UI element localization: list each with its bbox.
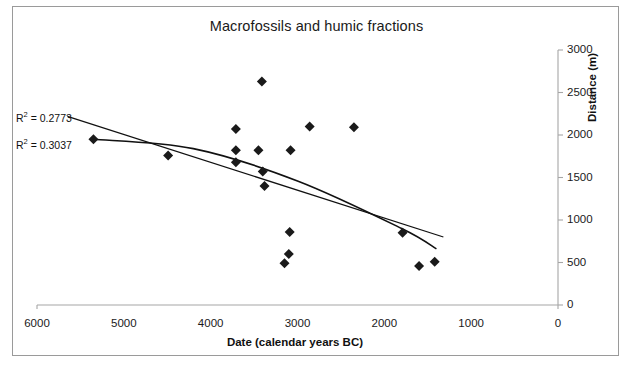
r2-poly-annotation: R2 = 0.3037 <box>16 137 72 151</box>
y-tick-label: 2000 <box>567 128 593 140</box>
data-point-marker <box>231 124 241 134</box>
data-point-marker <box>260 181 270 191</box>
data-point-marker <box>305 122 315 132</box>
data-point-marker <box>286 145 296 155</box>
data-point-marker <box>163 150 173 160</box>
y-tick-label: 0 <box>567 298 573 310</box>
data-points-group <box>88 76 439 270</box>
y-tick-label: 1000 <box>567 213 593 225</box>
x-tick-label: 4000 <box>198 317 224 329</box>
data-point-marker <box>284 249 294 259</box>
x-tick-label: 5000 <box>111 317 137 329</box>
data-point-marker <box>257 76 267 86</box>
plot-canvas <box>0 0 633 370</box>
data-point-marker <box>253 145 263 155</box>
data-point-marker <box>88 134 98 144</box>
data-point-marker <box>231 145 241 155</box>
r2-linear-annotation: R2 = 0.2773 <box>16 110 72 124</box>
linear-trendline <box>67 116 443 237</box>
x-tick-label: 2000 <box>372 317 398 329</box>
data-point-marker <box>349 122 359 132</box>
x-tick-label: 6000 <box>24 317 50 329</box>
y-tick-label: 500 <box>567 256 586 268</box>
data-point-marker <box>398 228 408 238</box>
data-point-marker <box>414 261 424 271</box>
data-point-marker <box>430 257 440 267</box>
axes-group <box>37 50 563 309</box>
y-axis-title: Distance (m) <box>586 53 598 122</box>
x-tick-label: 3000 <box>285 317 311 329</box>
x-axis-title: Date (calendar years BC) <box>0 336 590 348</box>
data-point-marker <box>258 167 268 177</box>
data-point-marker <box>279 258 289 268</box>
data-point-marker <box>285 227 295 237</box>
x-tick-label: 0 <box>555 317 561 329</box>
x-tick-label: 1000 <box>458 317 484 329</box>
trendlines-group <box>67 116 443 249</box>
polynomial-trendline <box>93 139 436 249</box>
y-tick-label: 1500 <box>567 171 593 183</box>
figure-container: Macrofossils and humic fractions 6000500… <box>0 0 633 370</box>
